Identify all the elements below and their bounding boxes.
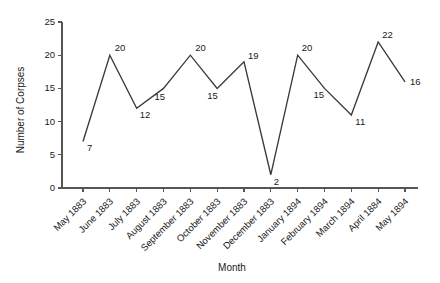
y-tick-label: 10 bbox=[44, 116, 55, 127]
y-tick-label: 25 bbox=[44, 16, 55, 27]
data-point-label: 22 bbox=[382, 29, 393, 40]
data-point-label: 16 bbox=[410, 76, 421, 87]
y-tick-label: 20 bbox=[44, 49, 55, 60]
y-tick-label: 0 bbox=[50, 182, 55, 193]
y-tick-marks bbox=[58, 22, 62, 188]
data-series-line bbox=[83, 42, 405, 175]
chart-canvas: 0510152025 May 1883June 1883July 1883Aug… bbox=[0, 0, 440, 283]
x-axis-title: Month bbox=[218, 262, 246, 273]
data-point-label: 15 bbox=[207, 90, 218, 101]
x-tick-marks bbox=[83, 188, 405, 192]
data-point-label: 2 bbox=[274, 176, 279, 187]
x-axis-group: May 1883June 1883July 1883August 1883Sep… bbox=[51, 188, 418, 253]
data-point-label: 20 bbox=[302, 42, 313, 53]
data-point-label: 11 bbox=[355, 116, 365, 127]
data-point-label: 20 bbox=[195, 42, 206, 53]
data-point-label: 7 bbox=[87, 142, 92, 153]
line-chart: 0510152025 May 1883June 1883July 1883Aug… bbox=[0, 0, 440, 283]
data-point-label: 15 bbox=[155, 91, 166, 102]
y-axis-title: Number of Corpses bbox=[15, 67, 26, 154]
y-tick-label: 5 bbox=[50, 149, 55, 160]
data-point-label: 20 bbox=[115, 42, 126, 53]
data-point-label: 19 bbox=[248, 50, 259, 61]
y-tick-labels: 0510152025 bbox=[44, 16, 55, 193]
data-point-label: 12 bbox=[140, 109, 151, 120]
data-point-label: 15 bbox=[314, 89, 325, 100]
y-axis-group: 0510152025 bbox=[44, 16, 62, 193]
x-tick-labels: May 1883June 1883July 1883August 1883Sep… bbox=[51, 196, 410, 253]
y-tick-label: 15 bbox=[44, 82, 55, 93]
